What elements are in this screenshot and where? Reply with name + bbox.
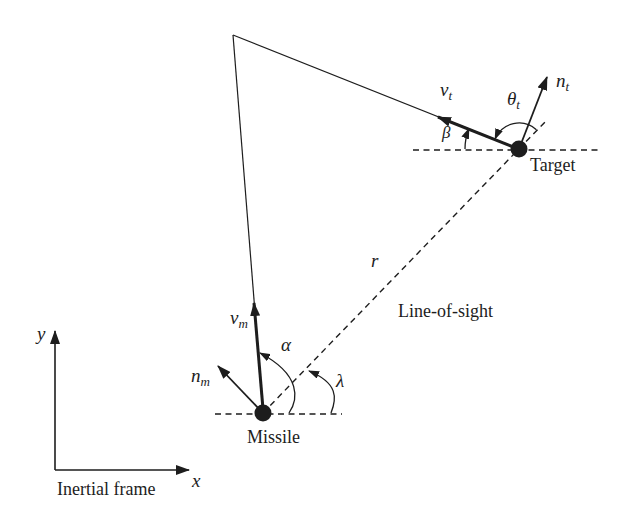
theta-t-angle-arc bbox=[495, 123, 536, 139]
alpha-angle-label: α bbox=[281, 335, 291, 354]
target-dot bbox=[511, 141, 528, 158]
missile-velocity-vector bbox=[254, 303, 263, 409]
engagement-geometry-figure: vt nt θt β vm nm α λ r Line-of-sight Mis… bbox=[0, 0, 631, 527]
line-of-sight-label: Line-of-sight bbox=[398, 302, 493, 320]
y-axis-label: y bbox=[37, 324, 45, 343]
theta-t-angle-label: θt bbox=[507, 89, 520, 108]
range-label: r bbox=[371, 251, 378, 270]
beta-angle-arc bbox=[465, 129, 469, 149]
alpha-angle-arc bbox=[260, 353, 295, 413]
missile-velocity-label: vm bbox=[230, 308, 248, 327]
missile-label: Missile bbox=[247, 428, 300, 446]
x-axis-label: x bbox=[192, 471, 200, 490]
target-normal-acceleration-label: nt bbox=[556, 71, 569, 90]
inertial-frame-label: Inertial frame bbox=[57, 480, 155, 498]
target-velocity-label: vt bbox=[440, 80, 452, 99]
line-of-sight-dashed-line bbox=[263, 122, 545, 413]
beta-angle-label: β bbox=[442, 124, 450, 141]
geometry-canvas bbox=[0, 0, 631, 527]
target-normal-acceleration-vector bbox=[519, 77, 547, 149]
target-label: Target bbox=[530, 156, 575, 174]
missile-dot bbox=[255, 405, 272, 422]
lambda-angle-arc bbox=[309, 371, 334, 413]
missile-normal-acceleration-label: nm bbox=[191, 366, 210, 385]
missile-normal-acceleration-vector bbox=[218, 366, 263, 413]
lambda-angle-label: λ bbox=[336, 371, 344, 390]
